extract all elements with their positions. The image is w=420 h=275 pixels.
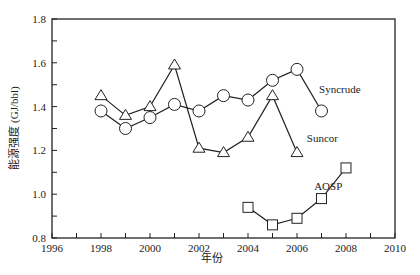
x-axis-label: 年份	[201, 251, 223, 264]
triangle-marker	[193, 142, 205, 152]
x-tick-label: 2008	[335, 242, 358, 254]
circle-marker	[193, 105, 205, 117]
series-syncrude: Syncrude	[95, 63, 361, 134]
series-label: Syncrude	[319, 83, 361, 95]
series-line	[101, 69, 322, 128]
x-tick-label: 2004	[237, 242, 260, 254]
y-tick-label: 1.4	[32, 101, 46, 113]
series-label: Suncor	[307, 132, 339, 144]
y-tick-label: 1.6	[32, 57, 46, 69]
y-tick-label: 1.2	[32, 144, 46, 156]
x-tick-label: 2006	[286, 242, 309, 254]
circle-marker	[291, 63, 303, 75]
triangle-marker	[291, 147, 303, 157]
axes: 199619982000200220042006200820100.81.01.…	[32, 13, 406, 254]
series-aosp: AOSP	[243, 163, 351, 230]
circle-marker	[144, 112, 156, 124]
y-axis-label: 能源强度 (GJ/bbl)	[7, 86, 21, 170]
circle-marker	[242, 94, 254, 106]
plot-frame	[52, 19, 395, 238]
triangle-marker	[169, 59, 181, 69]
triangle-marker	[95, 90, 107, 100]
y-tick-label: 1.8	[32, 13, 46, 25]
y-tick-label: 0.8	[32, 232, 46, 244]
circle-marker	[316, 105, 328, 117]
triangle-marker	[242, 131, 254, 141]
square-marker	[292, 213, 302, 223]
series-group: SyncrudeSuncorAOSP	[95, 59, 361, 230]
square-marker	[317, 194, 327, 204]
y-tick-label: 1.0	[32, 188, 46, 200]
x-tick-label: 1998	[90, 242, 113, 254]
circle-marker	[218, 90, 230, 102]
series-label: AOSP	[314, 180, 342, 192]
square-marker	[243, 202, 253, 212]
circle-marker	[95, 105, 107, 117]
triangle-marker	[144, 101, 156, 111]
square-marker	[341, 163, 351, 173]
line-chart: 199619982000200220042006200820100.81.01.…	[0, 0, 420, 275]
circle-marker	[267, 74, 279, 86]
square-marker	[268, 220, 278, 230]
x-tick-label: 2010	[384, 242, 407, 254]
circle-marker	[120, 123, 132, 135]
x-tick-label: 2000	[139, 242, 162, 254]
circle-marker	[169, 98, 181, 110]
triangle-marker	[267, 90, 279, 100]
